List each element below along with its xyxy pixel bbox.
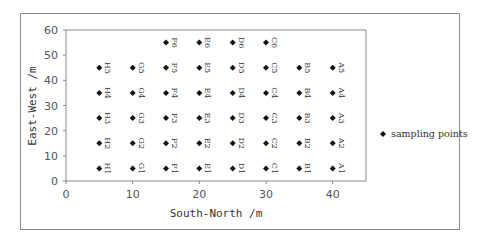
data-point-marker: [196, 140, 202, 146]
data-point-label: D4: [237, 87, 246, 99]
data-point-marker: [130, 115, 136, 121]
data-point-label: D2: [237, 137, 246, 149]
data-point-marker: [263, 115, 269, 121]
data-point-marker: [230, 115, 236, 121]
data-point-marker: [163, 165, 169, 171]
data-point-marker: [96, 115, 102, 121]
x-tick-label: 0: [63, 188, 70, 201]
plot-area: [66, 30, 366, 181]
data-point-marker: [263, 90, 269, 96]
data-point-marker: [230, 65, 236, 71]
data-point-label: H4: [103, 87, 112, 99]
data-point-marker: [96, 90, 102, 96]
x-tick-label: 30: [259, 188, 273, 201]
y-tick-label: 0: [51, 175, 58, 188]
y-tick-label: 20: [44, 125, 58, 138]
data-point-label: B4: [303, 87, 312, 98]
x-tick-label: 40: [326, 188, 340, 201]
data-point-marker: [196, 165, 202, 171]
data-point-label: H1: [103, 162, 112, 174]
data-point-label: G5: [137, 62, 146, 73]
data-point-label: F1: [170, 163, 179, 174]
data-point-marker: [96, 65, 102, 71]
data-point-marker: [296, 165, 302, 171]
data-point-label: C3: [270, 112, 279, 123]
data-point-label: E4: [203, 87, 212, 98]
data-point-label: B2: [303, 138, 312, 149]
legend-marker-icon: [380, 131, 386, 137]
data-point-marker: [263, 65, 269, 71]
data-point-label: C1: [270, 163, 279, 174]
data-point-label: E5: [203, 62, 212, 73]
data-point-label: G4: [137, 87, 146, 98]
data-point-label: G1: [137, 163, 146, 174]
data-point-label: B3: [303, 113, 312, 124]
x-tick-label: 10: [126, 188, 140, 201]
data-point-label: A5: [337, 61, 346, 73]
data-point-marker: [330, 90, 336, 96]
data-point-marker: [163, 40, 169, 46]
data-point-marker: [130, 140, 136, 146]
data-point-label: E2: [203, 138, 212, 149]
y-tick-label: 30: [44, 100, 58, 113]
data-point-label: H2: [103, 137, 112, 149]
data-point-marker: [296, 65, 302, 71]
data-point-label: E1: [203, 163, 212, 174]
data-point-marker: [163, 65, 169, 71]
data-point-marker: [230, 165, 236, 171]
data-point-label: H3: [103, 112, 112, 124]
data-point-label: C4: [270, 87, 279, 98]
data-point-label: G3: [137, 112, 146, 123]
y-axis-label: East-West /m: [26, 66, 39, 146]
data-point-label: C5: [270, 62, 279, 73]
data-point-marker: [263, 140, 269, 146]
data-point-marker: [330, 115, 336, 121]
y-tick-label: 60: [44, 24, 58, 37]
scatter-chart: 0102030405060 010203040 H1H2H3H4H5G1G2G3…: [0, 0, 481, 238]
data-point-marker: [130, 90, 136, 96]
data-point-label: D3: [237, 112, 246, 124]
data-point-marker: [196, 40, 202, 46]
data-point-marker: [130, 165, 136, 171]
data-point-label: F6: [170, 37, 179, 48]
data-point-marker: [130, 65, 136, 71]
x-axis-label: South-North /m: [170, 207, 263, 220]
data-point-marker: [163, 140, 169, 146]
legend: sampling points: [380, 128, 468, 139]
data-point-marker: [296, 90, 302, 96]
data-point-label: E6: [203, 37, 212, 48]
data-point-label: D6: [237, 37, 246, 49]
data-point-marker: [163, 90, 169, 96]
x-axis: 010203040: [63, 181, 340, 201]
data-point-label: A2: [337, 137, 346, 149]
y-tick-label: 10: [44, 150, 58, 163]
data-point-marker: [163, 115, 169, 121]
data-point-marker: [96, 165, 102, 171]
data-point-label: H5: [103, 62, 112, 74]
data-point-marker: [196, 115, 202, 121]
y-tick-label: 50: [44, 49, 58, 62]
data-point-label: A4: [337, 86, 346, 98]
y-tick-label: 40: [44, 74, 58, 87]
data-point-marker: [330, 140, 336, 146]
data-point-label: E3: [203, 113, 212, 124]
data-point-marker: [263, 165, 269, 171]
data-point-label: F5: [170, 62, 179, 73]
data-point-label: C6: [270, 37, 279, 48]
data-points: H1H2H3H4H5G1G2G3G4G5F1F2F3F4F5F6E1E2E3E4…: [96, 37, 345, 175]
data-point-label: G2: [137, 138, 146, 149]
data-point-label: A3: [337, 112, 346, 124]
data-point-marker: [263, 40, 269, 46]
data-point-marker: [296, 140, 302, 146]
data-point-marker: [196, 90, 202, 96]
data-point-label: D1: [237, 163, 246, 175]
data-point-label: F3: [170, 113, 179, 124]
data-point-marker: [330, 165, 336, 171]
data-point-marker: [96, 140, 102, 146]
data-point-marker: [196, 65, 202, 71]
data-point-marker: [330, 65, 336, 71]
data-point-label: D5: [237, 62, 246, 74]
data-point-marker: [230, 90, 236, 96]
legend-label: sampling points: [391, 128, 468, 139]
data-point-label: F4: [170, 88, 179, 99]
